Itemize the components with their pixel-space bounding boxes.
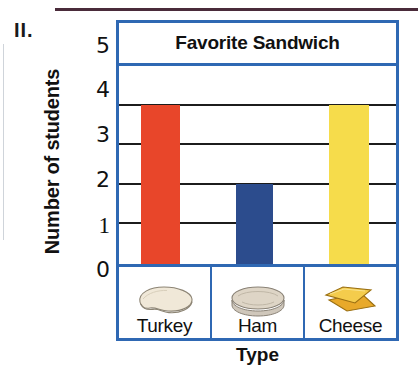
problem-number: II.: [14, 19, 34, 42]
y-tick-4: 4: [86, 79, 110, 101]
page-separator-rule: [55, 8, 418, 11]
page-margin-line: [3, 44, 4, 240]
x-label-cheese: Cheese: [319, 316, 383, 336]
x-axis-title: Type: [116, 344, 399, 366]
ham-slice-icon: [228, 282, 288, 318]
x-axis-category-band: Turkey Ham Cheese: [119, 267, 396, 338]
x-label-ham: Ham: [238, 316, 277, 336]
x-category-ham: Ham: [212, 267, 305, 338]
x-label-turkey: Turkey: [137, 316, 193, 336]
turkey-slice-icon: [134, 282, 196, 318]
x-category-cheese: Cheese: [305, 267, 396, 338]
plot-area: [119, 66, 396, 267]
bar-chart: Favorite Sandwich Turkey: [116, 20, 399, 341]
y-axis-tick-labels: 5 4 3 2 1 0: [86, 46, 112, 270]
x-category-turkey: Turkey: [119, 267, 212, 338]
chart-title-band: Favorite Sandwich: [119, 23, 396, 66]
y-axis-title: Number of students: [41, 62, 64, 262]
bar-ham: [236, 184, 273, 264]
y-tick-2: 2: [86, 169, 110, 191]
y-tick-1: 1: [86, 214, 110, 237]
bar-cheese: [329, 105, 369, 264]
bar-turkey: [141, 105, 180, 264]
chart-title: Favorite Sandwich: [175, 32, 339, 54]
y-tick-0: 0: [86, 259, 110, 281]
cheese-slices-icon: [321, 282, 381, 318]
y-tick-3: 3: [86, 124, 110, 146]
y-tick-5: 5: [86, 35, 110, 57]
